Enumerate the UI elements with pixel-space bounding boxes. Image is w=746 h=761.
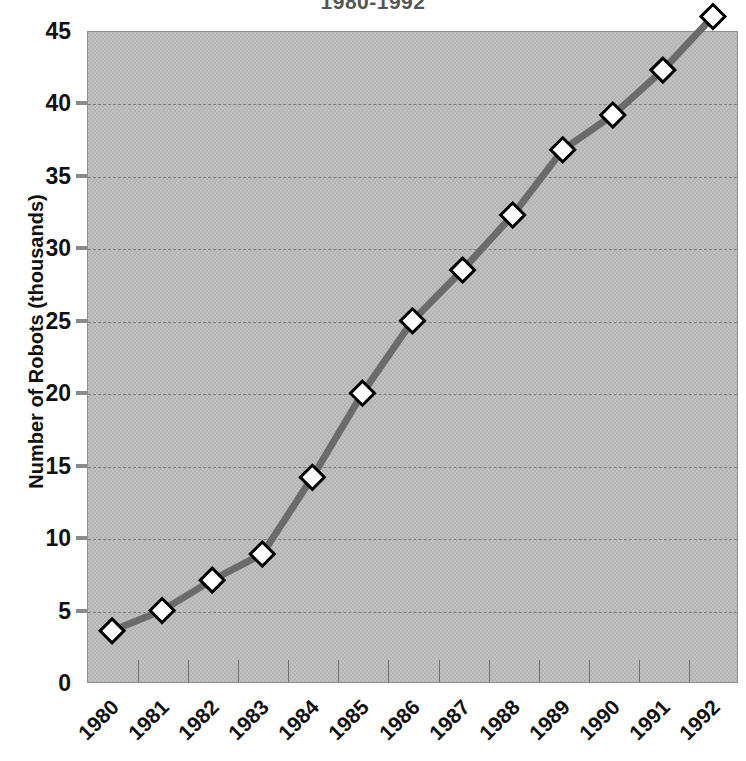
- x-tick-mark-1992: [689, 660, 690, 682]
- gridline-25: [88, 322, 737, 323]
- chart-figure: 1980-1992 Number of Robots (thousands) 0…: [0, 0, 746, 761]
- x-tick-label-1992: 1992: [675, 695, 725, 745]
- y-tick-label-25: 25: [11, 307, 71, 334]
- x-tick-label-1991: 1991: [625, 695, 675, 745]
- x-tick-mark-1990: [589, 660, 590, 682]
- y-tick-label-5: 5: [11, 597, 71, 624]
- x-tick-mark-1984: [288, 660, 289, 682]
- y-tick-mark-5: [76, 609, 87, 613]
- x-tick-mark-1989: [539, 660, 540, 682]
- x-tick-label-1986: 1986: [374, 695, 424, 745]
- y-tick-mark-30: [76, 246, 87, 250]
- y-tick-mark-40: [76, 101, 87, 105]
- x-tick-label-1984: 1984: [274, 695, 324, 745]
- y-tick-label-20: 20: [11, 380, 71, 407]
- y-tick-mark-35: [76, 174, 87, 178]
- y-tick-mark-20: [76, 391, 87, 395]
- gridline-35: [88, 177, 737, 178]
- x-tick-mark-1987: [439, 660, 440, 682]
- x-tick-label-1981: 1981: [124, 695, 174, 745]
- y-tick-label-15: 15: [11, 452, 71, 479]
- x-tick-label-1990: 1990: [574, 695, 624, 745]
- chart-title: 1980-1992: [0, 0, 746, 14]
- y-tick-label-0: 0: [11, 670, 71, 697]
- plot-area: [87, 31, 738, 683]
- x-tick-mark-1983: [238, 660, 239, 682]
- x-tick-mark-1985: [338, 660, 339, 682]
- y-tick-label-30: 30: [11, 235, 71, 262]
- x-tick-mark-1982: [188, 660, 189, 682]
- gridline-10: [88, 539, 737, 540]
- x-tick-mark-1981: [138, 660, 139, 682]
- y-tick-mark-25: [76, 319, 87, 323]
- x-tick-mark-1991: [639, 660, 640, 682]
- x-tick-label-1983: 1983: [224, 695, 274, 745]
- y-tick-mark-10: [76, 536, 87, 540]
- y-tick-label-45: 45: [11, 18, 71, 45]
- gridline-5: [88, 612, 737, 613]
- y-tick-label-40: 40: [11, 90, 71, 117]
- x-tick-mark-1986: [388, 660, 389, 682]
- x-tick-label-1982: 1982: [174, 695, 224, 745]
- y-tick-label-35: 35: [11, 162, 71, 189]
- y-tick-mark-15: [76, 464, 87, 468]
- gridline-30: [88, 249, 737, 250]
- gridline-15: [88, 467, 737, 468]
- x-tick-label-1985: 1985: [324, 695, 374, 745]
- x-tick-label-1987: 1987: [424, 695, 474, 745]
- x-tick-label-1989: 1989: [524, 695, 574, 745]
- x-tick-mark-1988: [489, 660, 490, 682]
- x-tick-label-1988: 1988: [474, 695, 524, 745]
- gridline-20: [88, 394, 737, 395]
- x-tick-label-1980: 1980: [74, 695, 124, 745]
- gridline-40: [88, 104, 737, 105]
- y-tick-label-10: 10: [11, 525, 71, 552]
